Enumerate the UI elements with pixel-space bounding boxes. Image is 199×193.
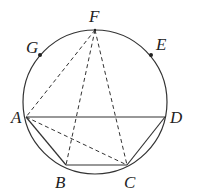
label-f: F — [88, 7, 100, 26]
segment-ab — [26, 117, 66, 165]
dashed-segments — [26, 30, 127, 165]
point-e-dot — [149, 53, 153, 57]
segment-cd — [127, 117, 165, 165]
point-f-dot — [94, 29, 96, 31]
segment-ac — [26, 117, 127, 165]
circumscribed-circle — [23, 30, 167, 174]
segment-fb — [66, 30, 95, 165]
geometry-diagram: F G E A D B C — [0, 0, 199, 193]
label-b: B — [55, 173, 66, 192]
label-c: C — [124, 173, 136, 192]
label-g: G — [26, 38, 38, 57]
label-e: E — [155, 35, 167, 54]
point-labels: F G E A D B C — [10, 7, 183, 192]
label-a: A — [10, 108, 22, 127]
segment-fc — [95, 30, 127, 165]
label-d: D — [169, 108, 183, 127]
point-g-dot — [38, 53, 42, 57]
trapezoid-abcd — [26, 117, 165, 165]
